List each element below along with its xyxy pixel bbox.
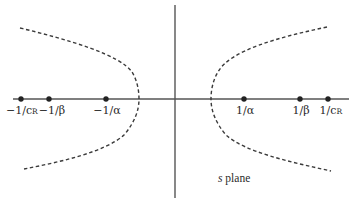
label-subscript: R	[32, 107, 38, 116]
point-pos-1-over-alpha	[241, 96, 246, 101]
label-pos-1-over-alpha: 1/α	[236, 104, 254, 117]
label-subscript: R	[336, 107, 342, 116]
label-main: −1/c	[6, 104, 32, 117]
label-pos-1-over-beta: 1/β	[292, 104, 309, 117]
label-pos-1-over-cR: 1/cR	[320, 104, 343, 117]
point-neg-1-over-beta	[46, 96, 51, 101]
label-main: −1/α	[93, 104, 120, 117]
point-pos-1-over-cR	[325, 96, 330, 101]
label-main: −1/β	[39, 104, 65, 117]
label-main: 1/c	[320, 104, 337, 117]
s-plane-diagram	[0, 0, 351, 202]
point-neg-1-over-alpha	[103, 96, 108, 101]
point-neg-1-over-cR	[18, 96, 23, 101]
label-main: 1/β	[292, 104, 309, 117]
label-main: 1/α	[236, 104, 254, 117]
label-neg-1-over-cR: −1/cR	[6, 104, 38, 117]
s-plane-label: s plane	[218, 172, 250, 184]
label-neg-1-over-beta: −1/β	[39, 104, 65, 117]
plane-variable: s	[218, 172, 222, 184]
label-neg-1-over-alpha: −1/α	[93, 104, 120, 117]
point-pos-1-over-beta	[297, 96, 302, 101]
plane-word: plane	[225, 172, 250, 184]
